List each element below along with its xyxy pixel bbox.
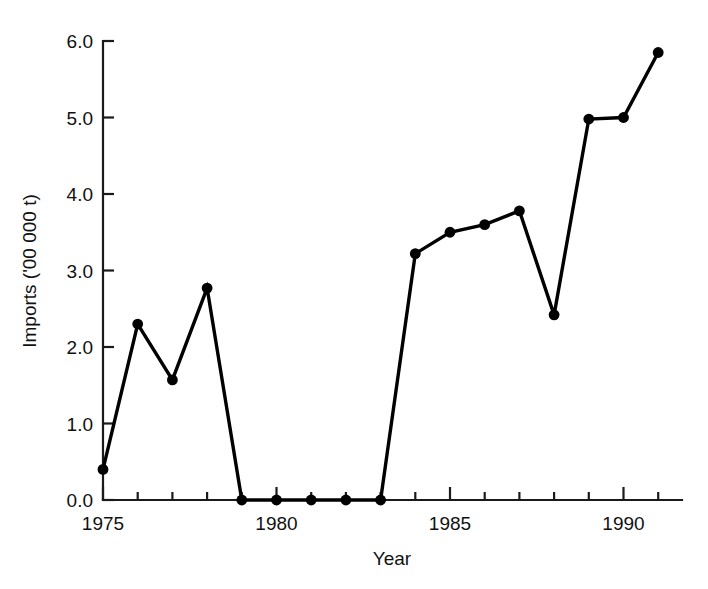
data-point [618, 112, 629, 123]
data-point [653, 47, 664, 58]
data-point [132, 319, 143, 330]
data-point [514, 205, 525, 216]
chart-canvas: 0.01.02.03.04.05.06.0 Imports ('00 000 t… [0, 0, 708, 589]
x-tick-label: 1985 [429, 513, 471, 534]
series-line-imports [103, 52, 658, 500]
y-tick-label: 2.0 [67, 337, 93, 358]
series-markers-imports [98, 47, 664, 505]
data-point [341, 495, 352, 506]
data-point [479, 219, 490, 230]
data-point [306, 495, 317, 506]
y-axis-tick-labels: 0.01.02.03.04.05.06.0 [67, 31, 93, 511]
data-point [202, 283, 213, 294]
x-axis-title: Year [373, 548, 412, 569]
y-tick-label: 3.0 [67, 261, 93, 282]
x-tick-label: 1990 [602, 513, 644, 534]
x-axis-tick-labels: 1975198019851990 [82, 513, 645, 534]
y-tick-label: 0.0 [67, 490, 93, 511]
y-tick-label: 6.0 [67, 31, 93, 52]
data-point [98, 464, 109, 475]
y-axis: 0.01.02.03.04.05.06.0 Imports ('00 000 t… [19, 31, 114, 511]
data-point [549, 309, 560, 320]
x-tick-label: 1975 [82, 513, 124, 534]
data-point [167, 374, 178, 385]
data-point [583, 114, 594, 125]
data-series-imports [98, 47, 664, 505]
y-tick-label: 1.0 [67, 414, 93, 435]
data-point [236, 495, 247, 506]
data-point [445, 227, 456, 238]
x-tick-label: 1980 [255, 513, 297, 534]
data-point [410, 248, 421, 259]
data-point [271, 495, 282, 506]
line-chart-figure: 0.01.02.03.04.05.06.0 Imports ('00 000 t… [0, 0, 708, 589]
y-tick-label: 4.0 [67, 184, 93, 205]
data-point [375, 495, 386, 506]
y-tick-label: 5.0 [67, 108, 93, 129]
y-axis-title: Imports ('00 000 t) [19, 194, 40, 348]
